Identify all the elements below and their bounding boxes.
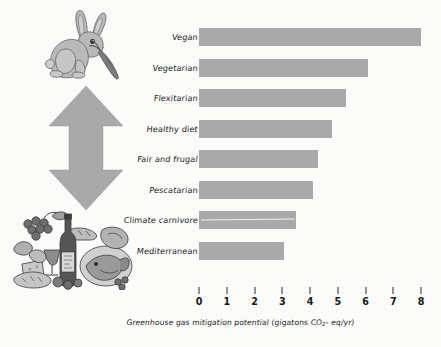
bar-track	[199, 53, 437, 84]
bar-flexitarian	[199, 89, 346, 107]
x-axis-tick-label: 0	[196, 296, 203, 307]
bar-label-climate-carnivore: Climate carnivore	[67, 215, 198, 225]
x-axis-tick	[337, 287, 338, 294]
bar-track	[199, 205, 437, 236]
x-axis-tick	[254, 287, 255, 294]
x-axis-tick-label: 8	[418, 296, 425, 307]
table-row: Healthy diet	[0, 114, 441, 145]
x-axis-tick	[393, 287, 394, 294]
x-axis-tick	[421, 287, 422, 294]
x-axis-tick	[310, 287, 311, 294]
bar-track	[199, 144, 437, 175]
bar-climate-carnivore	[199, 211, 296, 229]
bar-label-flexitarian: Flexitarian	[67, 93, 198, 103]
table-row: Fair and frugal	[0, 144, 441, 175]
x-axis-tick-label: 3	[279, 296, 286, 307]
bar-chart: Vegan Vegetarian Flexitarian Healthy die…	[0, 0, 441, 347]
table-row: Vegan	[0, 22, 441, 53]
bar-label-mediterranean: Mediterranean	[67, 246, 198, 256]
bar-track	[199, 114, 437, 145]
bar-mediterranean	[199, 242, 284, 260]
bar-vegetarian	[199, 59, 368, 77]
x-axis-tick	[365, 287, 366, 294]
figure-canvas: Vegan Vegetarian Flexitarian Healthy die…	[0, 0, 441, 347]
bar-track	[199, 236, 437, 267]
x-axis-caption: Greenhouse gas mitigation potential (gig…	[0, 318, 441, 327]
table-row: Climate carnivore	[0, 205, 441, 236]
table-row: Vegetarian	[0, 53, 441, 84]
x-axis-tick-label: 1	[223, 296, 230, 307]
x-axis-caption-prefix: Greenhouse gas mitigation potential (gig…	[126, 318, 323, 327]
bar-label-healthy-diet: Healthy diet	[67, 124, 198, 134]
x-axis-tick-label: 6	[362, 296, 369, 307]
x-axis: 012345678	[199, 287, 421, 317]
bar-track	[199, 83, 437, 114]
x-axis-tick	[199, 287, 200, 294]
table-row: Mediterranean	[0, 236, 441, 267]
bar-label-vegetarian: Vegetarian	[67, 63, 198, 73]
x-axis-caption-suffix: - eq/yr)	[325, 318, 355, 327]
bar-rows: Vegan Vegetarian Flexitarian Healthy die…	[0, 22, 441, 266]
bar-pescatarian	[199, 181, 313, 199]
x-axis-tick-label: 7	[390, 296, 397, 307]
bar-healthy-diet	[199, 120, 332, 138]
bar-label-vegan: Vegan	[67, 32, 198, 42]
bar-label-fair-and-frugal: Fair and frugal	[67, 154, 198, 164]
x-axis-tick	[226, 287, 227, 294]
bar-vegan	[199, 28, 421, 46]
table-row: Flexitarian	[0, 83, 441, 114]
bar-track	[199, 175, 437, 206]
bar-track	[199, 22, 437, 53]
x-axis-tick-label: 4	[307, 296, 314, 307]
x-axis-tick	[282, 287, 283, 294]
bar-label-pescatarian: Pescatarian	[67, 185, 198, 195]
x-axis-tick-label: 5	[334, 296, 341, 307]
table-row: Pescatarian	[0, 175, 441, 206]
x-axis-tick-label: 2	[251, 296, 258, 307]
bar-fair-and-frugal	[199, 150, 318, 168]
